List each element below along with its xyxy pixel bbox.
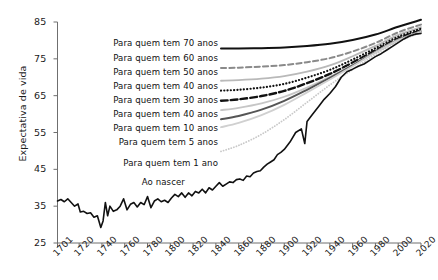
series-label-ao-nascer: Ao nascer — [113, 177, 185, 187]
y-tick-marks — [54, 22, 58, 243]
y-axis-title: Expectativa de vida — [17, 54, 28, 174]
series-label-30-anos: Para quem tem 30 anos — [107, 95, 218, 105]
y-tick-label: 65 — [25, 90, 47, 101]
series-label-5-anos: Para quem tem 5 anos — [107, 137, 218, 147]
series-label-60-anos: Para quem tem 60 anos — [107, 53, 218, 63]
series-label-70-anos: Para quem tem 70 anos — [107, 38, 218, 48]
series-label-1-ano: Para quem tem 1 ano — [93, 158, 218, 168]
series-label-50-anos: Para quem tem 50 anos — [107, 67, 218, 77]
series-line — [221, 33, 421, 152]
y-tick-label: 25 — [25, 237, 47, 248]
y-tick-label: 35 — [25, 200, 47, 211]
y-tick-label: 55 — [25, 127, 47, 138]
y-tick-label: 45 — [25, 163, 47, 174]
y-tick-label: 75 — [25, 53, 47, 64]
series-label-40-anos-b: Para quem tem 40 anos — [107, 109, 218, 119]
series-line — [221, 25, 421, 68]
series-line — [221, 30, 421, 101]
series-label-40-anos: Para quem tem 40 anos — [107, 81, 218, 91]
series-label-10-anos: Para quem tem 10 anos — [107, 123, 218, 133]
y-tick-label: 85 — [25, 16, 47, 27]
